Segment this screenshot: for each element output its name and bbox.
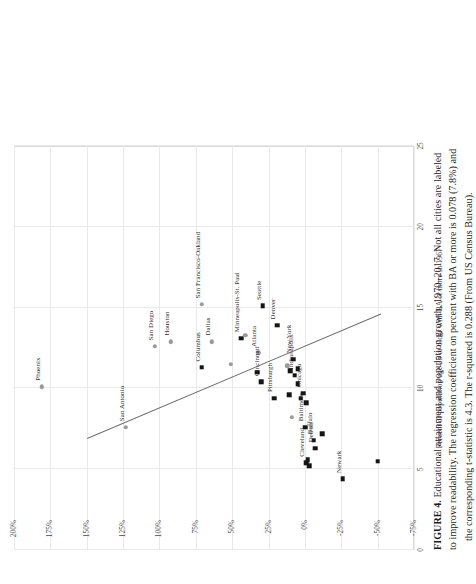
square-marker-icon	[291, 357, 296, 362]
data-point-label: Dallas	[204, 317, 211, 335]
scatter-plot: PhoenixSan AntonioSan DiegoHoustonColumb…	[14, 146, 414, 550]
data-point-seattle	[260, 304, 265, 309]
data-point-label: San Francisco-Oakland	[194, 232, 201, 299]
caption-figure-number: FIGURE 4.	[432, 500, 443, 550]
data-point-san-francisco-oakland	[199, 302, 203, 306]
data-point	[288, 368, 293, 373]
y-axis-ticks: 200%175%150%125%100%75%50%25%0%-25%-50%-…	[14, 520, 414, 554]
data-point	[229, 362, 233, 366]
data-point-label: Newark	[335, 450, 342, 472]
square-marker-icon	[199, 365, 204, 370]
y-axis-tick-label: 0%	[301, 520, 309, 530]
gridline-horizontal	[378, 146, 379, 550]
gridline-vertical	[14, 226, 414, 227]
data-point	[290, 415, 294, 419]
square-marker-icon	[307, 464, 312, 469]
square-marker-icon	[272, 396, 277, 401]
data-point-label: Columbus	[194, 332, 201, 361]
data-point-label: Houston	[163, 311, 170, 335]
caption-line-1: Educational attainment and population gr…	[432, 153, 443, 498]
data-point-label: Phoenix	[34, 358, 41, 381]
gridline-horizontal	[87, 146, 88, 550]
square-marker-icon	[313, 446, 318, 451]
data-point-label: San Diego	[147, 311, 154, 341]
gridline-vertical	[14, 387, 414, 388]
x-axis-tick-label: 10	[417, 385, 425, 392]
data-point-detroit	[313, 446, 318, 451]
data-point-dallas	[210, 339, 214, 343]
data-point	[255, 370, 260, 375]
square-marker-icon	[287, 393, 292, 398]
gridline-vertical	[14, 468, 414, 469]
circle-marker-icon	[39, 385, 43, 389]
data-point	[375, 459, 380, 464]
x-axis-tick-label: 25	[417, 142, 425, 149]
square-marker-icon	[288, 368, 293, 373]
circle-marker-icon	[153, 344, 157, 348]
square-marker-icon	[306, 457, 311, 462]
circle-marker-icon	[290, 415, 294, 419]
y-axis-tick-label: -50%	[374, 520, 382, 536]
data-point	[285, 364, 289, 368]
data-point	[307, 464, 312, 469]
data-point-label: Detroit	[307, 422, 314, 442]
data-point-label: Cleveland	[298, 428, 305, 457]
square-marker-icon	[340, 477, 345, 482]
square-marker-icon	[260, 304, 265, 309]
data-point-denver	[275, 323, 280, 328]
gridline-vertical	[14, 145, 414, 146]
data-point-label: Denver	[269, 299, 276, 320]
data-point-new-york	[291, 357, 296, 362]
circle-marker-icon	[229, 362, 233, 366]
data-point-label: Minneapolis-St. Paul	[233, 272, 240, 332]
data-point-label: Atlanta	[250, 326, 257, 347]
square-marker-icon	[375, 459, 380, 464]
x-axis-tick-label: 5	[417, 467, 425, 471]
data-point-phoenix	[39, 385, 43, 389]
data-point-houston	[169, 339, 173, 343]
data-point-pittsburgh	[272, 396, 277, 401]
data-point-cincinnati	[259, 380, 264, 385]
square-marker-icon	[320, 431, 325, 436]
circle-marker-icon	[243, 333, 247, 337]
data-point-san-antonio	[124, 425, 128, 429]
data-point	[320, 431, 325, 436]
gridline-horizontal	[269, 146, 270, 550]
y-axis-tick-label: 200%	[10, 520, 18, 537]
square-marker-icon	[259, 380, 264, 385]
y-axis-tick-label: 125%	[119, 520, 127, 537]
x-axis-tick-label: 0	[417, 548, 425, 552]
square-marker-icon	[298, 396, 303, 401]
gridline-horizontal	[14, 146, 15, 550]
caption-line-3: the corresponding t-statistic is 4.3. Th…	[461, 146, 476, 550]
data-point-label: San Antonio	[118, 386, 125, 421]
gridline-horizontal	[50, 146, 51, 550]
gridline-horizontal	[232, 146, 233, 550]
square-marker-icon	[295, 367, 300, 372]
y-axis-tick-label: 25%	[265, 520, 273, 533]
data-point	[298, 396, 303, 401]
figure-caption: FIGURE 4. Educational attainment and pop…	[430, 146, 476, 550]
caption-line-2: to improve readability. The regression c…	[445, 146, 460, 550]
data-point-columbus	[199, 365, 204, 370]
gridline-horizontal	[341, 146, 342, 550]
x-axis-ticks: 0510152025	[414, 146, 430, 550]
data-point-newark	[340, 477, 345, 482]
gridline-horizontal	[305, 146, 306, 550]
circle-marker-icon	[285, 364, 289, 368]
circle-marker-icon	[169, 339, 173, 343]
square-marker-icon	[304, 401, 309, 406]
y-axis-tick-label: 100%	[155, 520, 163, 537]
gridline-horizontal	[159, 146, 160, 550]
data-point	[295, 381, 300, 386]
data-point-label: Pittsburgh	[266, 363, 273, 392]
data-point-label: New York	[285, 325, 292, 354]
x-axis-tick-label: 20	[417, 223, 425, 230]
circle-marker-icon	[124, 425, 128, 429]
y-axis-tick-label: 50%	[228, 520, 236, 533]
square-marker-icon	[275, 323, 280, 328]
data-point	[304, 401, 309, 406]
data-point	[306, 457, 311, 462]
